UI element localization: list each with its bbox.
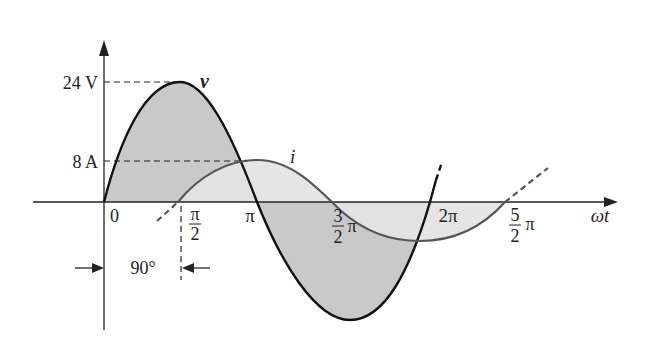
- phase-diagram: 24 V 8 A v i 0 π 2 π 3 2 π 2π 5 2 π ωt 9…: [0, 0, 647, 342]
- voltage-dashed-extension: [436, 162, 442, 180]
- phase-arrow-left-icon: [92, 263, 104, 273]
- phase-angle-label: 90°: [130, 258, 155, 278]
- tick-label-zero: 0: [110, 206, 119, 226]
- voltage-peak-label: 24 V: [63, 73, 98, 93]
- tick-label-three-half-num: 3: [334, 206, 343, 226]
- tick-label-three-half-pi: π: [347, 216, 356, 236]
- tick-label-five-half-den: 2: [511, 226, 520, 246]
- current-dashed-start: [157, 202, 178, 221]
- voltage-curve-label: v: [200, 70, 210, 92]
- tick-label-five-half-pi: π: [525, 214, 534, 234]
- x-axis-label: ωt: [591, 205, 610, 226]
- tick-label-three-half-den: 2: [334, 227, 343, 247]
- y-axis-arrow-icon: [99, 40, 109, 56]
- tick-label-five-half-num: 5: [511, 205, 520, 225]
- tick-label-half-pi-num: π: [190, 204, 199, 224]
- phase-arrow-right-icon: [182, 263, 194, 273]
- current-dashed-end: [505, 168, 548, 202]
- current-peak-label: 8 A: [72, 152, 98, 172]
- current-curve-label: i: [290, 146, 295, 167]
- tick-label-two-pi: 2π: [438, 205, 458, 226]
- tick-label-pi: π: [245, 205, 255, 226]
- tick-label-half-pi-den: 2: [191, 224, 200, 244]
